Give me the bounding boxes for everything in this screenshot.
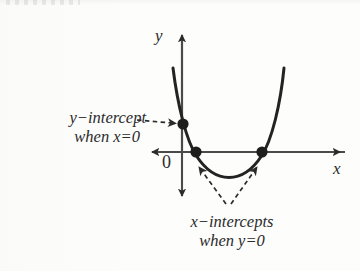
parabola-curve xyxy=(173,68,284,178)
point-x-intercept-left xyxy=(190,146,201,157)
y-axis-label: y xyxy=(155,26,163,46)
x-axis-label: x xyxy=(333,159,341,179)
annotation-y-intercept-line2: when x=0 xyxy=(14,127,146,146)
annotation-y-intercept: y−intercept when x=0 xyxy=(14,108,146,147)
intercepts-figure: y−intercept when x=0 x−intercepts when y… xyxy=(0,0,360,271)
point-y-intercept xyxy=(177,118,188,129)
point-x-intercept-right xyxy=(256,146,267,157)
annotation-x-intercepts-line1: x−intercepts xyxy=(191,212,274,231)
annotation-y-intercept-line1: y−intercept xyxy=(70,108,147,127)
origin-label: 0 xyxy=(162,152,171,173)
annotation-x-intercepts: x−intercepts when y=0 xyxy=(152,212,312,251)
annotation-x-intercepts-line2: when y=0 xyxy=(152,231,312,250)
